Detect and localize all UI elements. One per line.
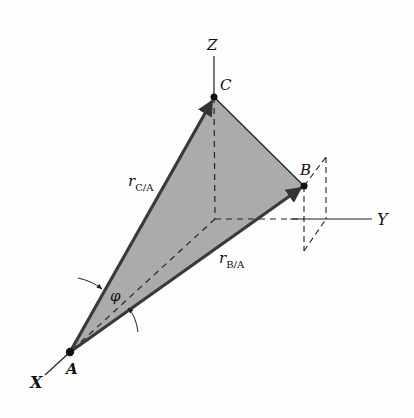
vector-diagram: Z Y X C B A rC/A rB/A φ <box>0 0 414 418</box>
point-b <box>301 183 308 190</box>
angle-arrow-upper <box>78 278 102 289</box>
vector-r-c-a-label: rC/A <box>128 172 154 193</box>
point-a-label: A <box>64 360 78 378</box>
point-c-label: C <box>220 76 232 94</box>
point-a <box>66 348 74 356</box>
diagram-svg: Z Y X C B A rC/A rB/A φ <box>0 0 414 418</box>
z-axis-label: Z <box>206 36 218 54</box>
point-c <box>211 94 218 101</box>
vector-r-b-a-label: rB/A <box>219 249 245 270</box>
point-b-label: B <box>299 161 311 179</box>
x-axis-label: X <box>29 373 43 392</box>
angle-phi-label: φ <box>110 287 121 305</box>
y-axis-label: Y <box>377 210 389 229</box>
triangle-abc <box>70 97 304 352</box>
